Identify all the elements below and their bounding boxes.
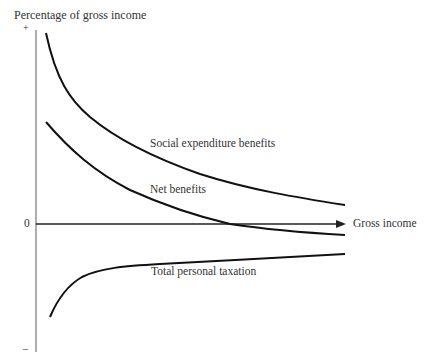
social-expenditure-label: Social expenditure benefits	[150, 137, 275, 149]
y-tick-zero: 0	[24, 217, 30, 229]
total-taxation-curve	[50, 254, 345, 317]
y-axis-title: Percentage of gross income	[14, 8, 146, 23]
diagram-canvas	[0, 0, 435, 360]
x-axis-arrow-icon	[336, 220, 346, 228]
total-taxation-label: Total personal taxation	[151, 265, 256, 277]
net-benefits-label: Net benefits	[150, 183, 206, 195]
social-expenditure-curve	[46, 33, 345, 205]
y-tick-minus: –	[23, 343, 28, 354]
x-axis-title: Gross income	[353, 217, 417, 229]
y-tick-plus: +	[23, 22, 29, 33]
